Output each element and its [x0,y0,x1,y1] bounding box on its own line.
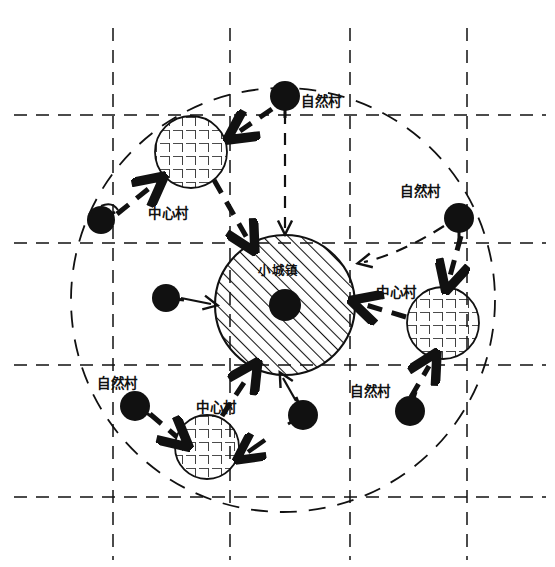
natural-village-dot [270,81,300,111]
natural-village-dot [120,391,150,421]
central-village-label: 中心村 [148,205,189,221]
diagram-canvas: 小城镇 中心村 中心村 中心村 [0,0,555,567]
central-village-node: 中心村 [376,284,479,359]
natural-village-label: 自然村 [97,375,138,391]
natural-village-node [87,206,115,234]
small-town-node: 小城镇 [215,235,355,375]
natural-village-node: 自然村 [97,375,151,421]
central-village-circle [407,287,479,359]
central-village-node: 中心村 [148,116,227,221]
flow-top-natural-to-central [240,109,272,131]
flow-left-natural-to-central [117,186,152,214]
flow-bottomleft-natural-to-central [150,414,177,437]
natural-village-label: 自然村 [400,183,441,199]
flow-natural-direct-left [181,298,211,304]
central-village-label: 中心村 [376,284,417,300]
small-town-core-dot [269,289,301,321]
natural-village-node: 自然村 [270,81,342,118]
natural-village-dot [444,203,474,233]
natural-village-node [288,397,318,430]
natural-village-node [152,284,184,312]
village-hierarchy-diagram: 小城镇 中心村 中心村 中心村 [0,0,555,567]
central-village-node: 中心村 [175,399,239,479]
flow-bottomright-natural-to-central [411,366,429,397]
natural-village-dot [87,206,115,234]
flow-natural-direct-right [364,226,444,262]
flow-natural-direct-bottom [283,378,296,401]
flow-right-natural-to-central [450,236,461,276]
natural-village-label: 自然村 [301,93,342,109]
flow-central-to-town-right [366,305,406,317]
natural-village-label: 自然村 [350,383,391,399]
natural-village-dot [395,396,425,426]
central-village-circle [175,415,239,479]
flow-extra-thin-bottom [248,440,265,452]
central-village-circle [155,116,227,188]
natural-village-dot [152,284,180,312]
natural-village-dot [288,400,318,430]
small-town-label: 小城镇 [257,263,299,278]
